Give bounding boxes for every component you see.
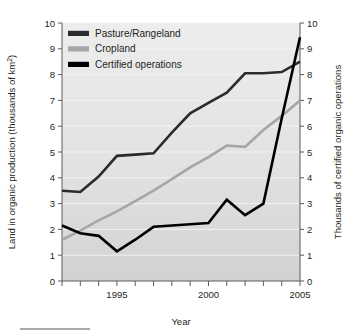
y-axis-left-tick-label: 8 <box>50 69 55 80</box>
y-axis-right-tick-label: 7 <box>307 95 312 106</box>
y-axis-left-tick-label: 5 <box>50 147 55 158</box>
legend-label: Certified operations <box>95 59 182 70</box>
y-axis-right-tick-label: 0 <box>307 276 312 287</box>
y-axis-right-title: Thousands of certified organic operation… <box>332 65 343 240</box>
y-axis-left-tick-label: 0 <box>50 276 55 287</box>
legend-label: Cropland <box>95 43 136 54</box>
y-axis-left-tick-label: 3 <box>50 198 55 209</box>
y-axis-right-tick-label: 3 <box>307 198 312 209</box>
y-axis-left-tick-label: 2 <box>50 224 55 235</box>
legend-swatch <box>68 62 89 67</box>
y-axis-right-tick-label: 9 <box>307 43 312 54</box>
legend-swatch <box>68 46 89 51</box>
y-axis-right-tick-label: 10 <box>307 18 318 29</box>
organic-production-chart: 012345678910 012345678910 199520002005 P… <box>0 0 354 335</box>
y-axis-left-tick-label: 7 <box>50 95 55 106</box>
y-axis-left-tick-label: 4 <box>50 172 55 183</box>
y-axis-left-tick-label: 10 <box>44 18 55 29</box>
x-axis-tick-label: 2005 <box>289 289 310 300</box>
x-axis-tick-label: 2000 <box>198 289 219 300</box>
y-axis-left-title: Land in organic production (thousands of… <box>6 55 17 250</box>
y-axis-right-tick-label: 1 <box>307 250 312 261</box>
y-axis-left-tick-label: 6 <box>50 121 55 132</box>
y-axis-left-tick-label: 1 <box>50 250 55 261</box>
y-axis-right-tick-label: 4 <box>307 172 312 183</box>
svg-text:Land in organic production (th: Land in organic production (thousands of… <box>6 55 17 250</box>
y-axis-left-tick-label: 9 <box>50 43 55 54</box>
y-axis-right-tick-label: 6 <box>307 121 312 132</box>
legend-label: Pasture/Rangeland <box>95 28 181 39</box>
x-axis-title: Year <box>171 316 190 327</box>
x-axis-tick-label: 1995 <box>106 289 127 300</box>
y-axis-left-title-text: Land in organic production (thousands of… <box>6 62 17 250</box>
y-axis-right-tick-label: 5 <box>307 147 312 158</box>
legend-swatch <box>68 31 89 36</box>
y-axis-right-tick-label: 2 <box>307 224 312 235</box>
y-axis-left-title-tail: ) <box>6 55 17 58</box>
y-axis-right-tick-label: 8 <box>307 69 312 80</box>
